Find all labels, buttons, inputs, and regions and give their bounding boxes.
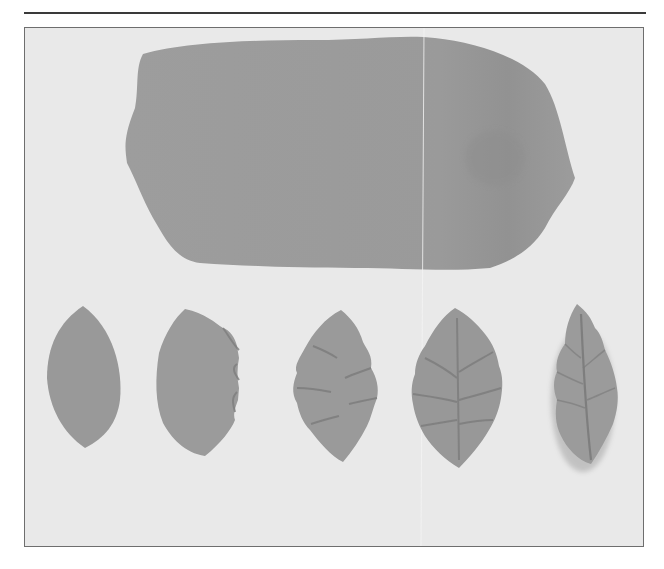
- leaf-stage-5: [551, 304, 618, 472]
- leaf-stage-2: [156, 309, 239, 456]
- photo-illustration: [25, 28, 644, 547]
- rolled-sheet: [125, 37, 575, 270]
- top-rule-divider: [24, 12, 646, 14]
- leaf-stage-4: [412, 308, 503, 468]
- leaf-stage-3: [293, 310, 378, 462]
- leaf-stage-1: [47, 306, 121, 448]
- photo-frame: [24, 27, 644, 547]
